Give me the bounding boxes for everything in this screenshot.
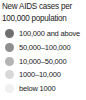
circle-swatch-icon xyxy=(5,43,14,52)
circle-swatch-icon xyxy=(5,29,14,38)
legend-title: New AIDS cases per 100,000 population xyxy=(2,1,86,24)
circle-swatch-icon xyxy=(5,70,14,79)
legend-item-label: 1000–10,000 xyxy=(19,70,61,79)
circle-swatch-icon xyxy=(5,84,14,93)
legend-title-line-1: New AIDS cases per xyxy=(2,1,86,13)
legend-item[interactable]: 50,000–100,000 xyxy=(1,41,86,55)
legend-item-label: below 1000 xyxy=(19,84,55,93)
legend-item-label: 10,000–50,000 xyxy=(19,57,67,66)
legend-item-list: 100,000 and above 50,000–100,000 10,000–… xyxy=(1,27,86,95)
legend-item-label: 100,000 and above xyxy=(19,29,80,38)
legend-title-line-2: 100,000 population xyxy=(2,13,86,25)
legend-item[interactable]: below 1000 xyxy=(1,82,86,96)
legend-item[interactable]: 10,000–50,000 xyxy=(1,54,86,68)
legend-item[interactable]: 1000–10,000 xyxy=(1,68,86,82)
legend-item[interactable]: 100,000 and above xyxy=(1,27,86,41)
map-legend: New AIDS cases per 100,000 population 10… xyxy=(0,0,86,100)
legend-item-label: 50,000–100,000 xyxy=(19,43,71,52)
circle-swatch-icon xyxy=(5,57,14,66)
